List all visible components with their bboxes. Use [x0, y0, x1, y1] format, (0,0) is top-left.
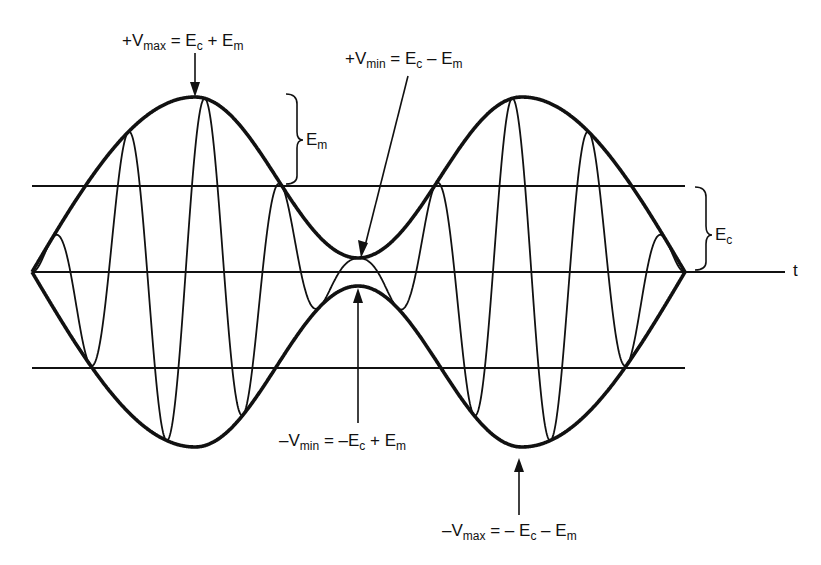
label-pos-vmin: +Vmin = Ec – Em: [345, 50, 463, 70]
ec-brace: [695, 187, 712, 270]
label-neg-vmax: –Vmax = – Ec – Em: [442, 522, 577, 542]
arrow-neg-vmax: [514, 458, 524, 515]
arrow-pos-vmax: [190, 53, 200, 97]
em-brace: [286, 94, 303, 184]
label-ec: Ec: [715, 226, 732, 246]
label-em: Em: [306, 131, 327, 151]
am-waveform-diagram: [0, 0, 821, 565]
label-neg-vmin: –Vmin = –Ec + Em: [279, 432, 406, 452]
time-axis-label: t: [793, 262, 798, 279]
upper-envelope: [32, 97, 685, 272]
arrow-neg-vmin: [353, 288, 363, 423]
label-pos-vmax: +Vmax = Ec + Em: [122, 32, 243, 52]
